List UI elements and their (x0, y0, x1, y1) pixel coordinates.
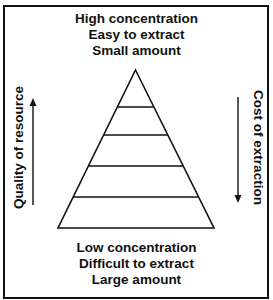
quality-of-resource-label: Quality of resource (11, 78, 26, 218)
pyramid-outline (58, 70, 214, 228)
down-arrow-icon (235, 97, 242, 203)
bottom-label-2: Difficult to extract (0, 256, 273, 272)
bottom-caption: Low concentration Difficult to extract L… (0, 240, 273, 288)
bottom-label-3: Large amount (0, 272, 273, 288)
bottom-label-1: Low concentration (0, 240, 273, 256)
up-arrow-icon (30, 98, 37, 205)
cost-of-extraction-label: Cost of extraction (251, 78, 266, 218)
